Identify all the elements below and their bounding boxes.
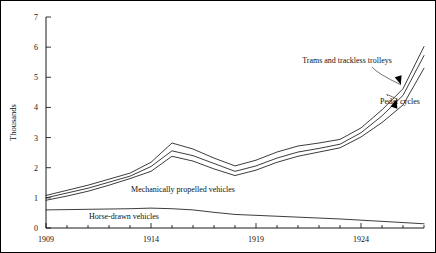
annotation-label-pedal: Pedal cycles xyxy=(380,97,420,106)
y-tick-label: 3 xyxy=(34,134,38,143)
series-line xyxy=(46,68,424,200)
y-tick-label: 4 xyxy=(34,103,38,112)
x-tick-label: 1919 xyxy=(248,235,264,244)
x-tick-label: 1909 xyxy=(38,235,54,244)
series-inline-label: Horse-drawn vehicles xyxy=(89,212,159,221)
series-inline-label: Mechanically propelled vehicles xyxy=(131,185,235,194)
x-tick-label: 1914 xyxy=(143,235,159,244)
chart-figure: 01234567 1909191419191924 Thousands Mech… xyxy=(0,0,436,253)
chart-annotations: Mechanically propelled vehiclesHorse-dra… xyxy=(89,56,420,221)
data-series-lines xyxy=(46,47,424,224)
y-tick-label: 0 xyxy=(34,224,38,233)
annotation-leader xyxy=(372,67,401,85)
series-line xyxy=(46,56,424,198)
annotation-label-trams: Trams and trackless trolleys xyxy=(302,56,392,65)
y-axis-tick-marks xyxy=(46,17,51,228)
x-tick-label: 1924 xyxy=(353,235,369,244)
y-axis-title: Thousands xyxy=(8,104,18,141)
x-axis-tick-labels: 1909191419191924 xyxy=(38,235,369,244)
x-axis-tick-marks xyxy=(46,223,424,228)
y-tick-label: 5 xyxy=(34,73,38,82)
series-line xyxy=(46,47,424,196)
y-tick-label: 7 xyxy=(34,13,38,22)
y-axis-tick-labels: 01234567 xyxy=(34,13,38,233)
y-tick-label: 2 xyxy=(34,164,38,173)
y-tick-label: 6 xyxy=(34,43,38,52)
y-tick-label: 1 xyxy=(34,194,38,203)
line-chart: 01234567 1909191419191924 Thousands Mech… xyxy=(0,0,436,253)
